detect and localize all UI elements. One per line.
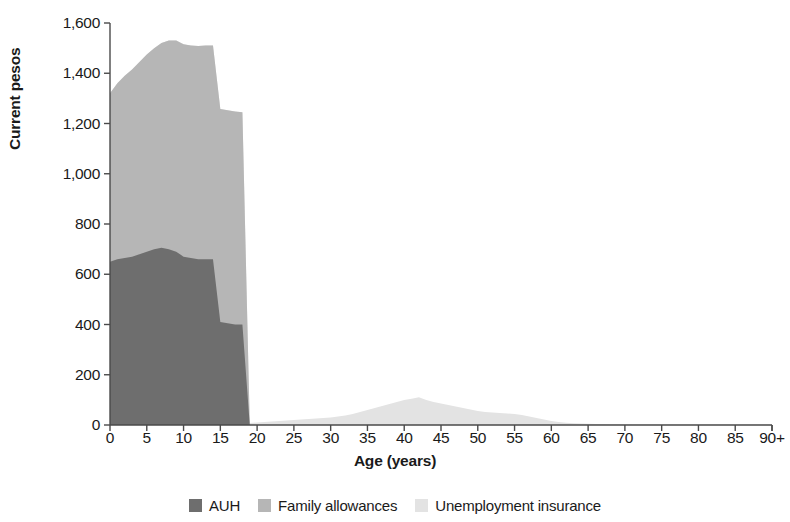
- x-axis-tick-label: 90+: [759, 429, 784, 447]
- x-axis-tick-label: 15: [212, 429, 229, 447]
- x-axis-tick-label: 80: [690, 429, 707, 447]
- x-axis-tick-label: 45: [433, 429, 450, 447]
- legend-swatch-icon: [258, 499, 271, 512]
- x-axis-tick-label: 65: [580, 429, 597, 447]
- x-axis-tick-label: 5: [143, 429, 151, 447]
- x-axis-tick-label: 30: [322, 429, 339, 447]
- x-axis-tick-label: 25: [286, 429, 303, 447]
- x-axis-tick-label: 60: [543, 429, 560, 447]
- x-axis-title: Age (years): [0, 452, 790, 470]
- x-axis-tick-label: 0: [106, 429, 114, 447]
- x-axis-tick-label: 35: [359, 429, 376, 447]
- x-axis-tick-label: 75: [653, 429, 670, 447]
- x-axis-tick-label: 40: [396, 429, 413, 447]
- x-axis-tick-label: 20: [249, 429, 266, 447]
- legend-label: Family allowances: [278, 497, 397, 514]
- legend-swatch-icon: [415, 499, 428, 512]
- legend-label: AUH: [209, 497, 240, 514]
- stacked-area-chart: Current pesos 02004006008001,0001,2001,4…: [0, 0, 790, 522]
- chart-legend: AUHFamily allowancesUnemployment insuran…: [0, 497, 790, 514]
- legend-item: Unemployment insurance: [415, 497, 601, 514]
- x-axis-tick-label: 50: [469, 429, 486, 447]
- legend-label: Unemployment insurance: [435, 497, 601, 514]
- x-axis-tick-label: 10: [175, 429, 192, 447]
- x-axis-tick-label: 55: [506, 429, 523, 447]
- legend-swatch-icon: [189, 499, 202, 512]
- legend-item: Family allowances: [258, 497, 397, 514]
- legend-item: AUH: [189, 497, 240, 514]
- area-series-auh: [110, 248, 772, 425]
- x-axis-tick-label: 70: [617, 429, 634, 447]
- x-axis-tick-label: 85: [727, 429, 744, 447]
